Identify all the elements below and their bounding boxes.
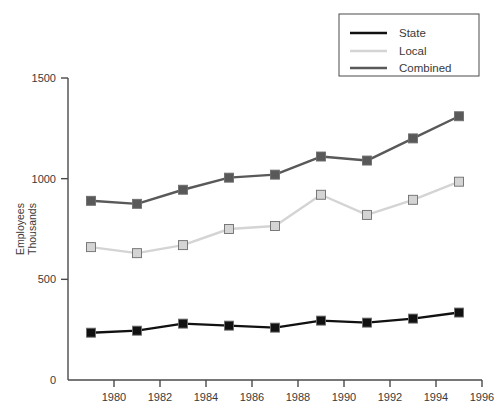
x-axis-tick-label: 1988 [286,391,310,403]
x-axis-tick-label: 1980 [102,391,126,403]
chart-legend[interactable]: State Local Combined [339,14,479,76]
y-axis-tick-label: 500 [38,273,56,285]
data-point-local-1995 [455,177,464,186]
y-axis-title: Employees Thousands [14,203,38,255]
data-point-state-1981 [133,326,142,335]
legend-label-state: State [399,27,426,39]
x-axis-tick-label: 1982 [148,391,172,403]
x-axis-tick-label: 1984 [194,391,218,403]
data-point-state-1991 [363,318,372,327]
data-point-combined-1979 [87,196,96,205]
chart-container: 050010001500 198019821984198619881990199… [0,0,494,415]
data-point-combined-1983 [179,185,188,194]
data-point-state-1995 [455,308,464,317]
x-axis-tick-label: 1990 [332,391,356,403]
x-axis-tick-label: 1992 [378,391,402,403]
x-axis-tick-labels: 198019821984198619881990199219941996 [102,391,494,403]
data-point-combined-1981 [133,199,142,208]
data-point-combined-1993 [409,134,418,143]
y-axis-tick-label: 1500 [32,72,56,84]
data-point-combined-1995 [455,112,464,121]
data-point-local-1991 [363,210,372,219]
x-axis-tick-label: 1986 [240,391,264,403]
data-point-combined-1989 [317,152,326,161]
data-point-state-1993 [409,314,418,323]
y-axis-title-line-2: Thousands [26,203,38,255]
data-point-local-1981 [133,249,142,258]
employment-line-chart: 050010001500 198019821984198619881990199… [0,0,494,415]
data-point-local-1989 [317,190,326,199]
data-point-state-1979 [87,328,96,337]
data-point-local-1993 [409,195,418,204]
data-point-combined-1985 [225,173,234,182]
x-axis-tick-label: 1996 [470,391,494,403]
legend-label-local: Local [399,45,427,57]
data-point-combined-1987 [271,170,280,179]
y-axis-tick-label: 1000 [32,173,56,185]
data-point-local-1987 [271,221,280,230]
x-axis-tick-label: 1994 [424,391,448,403]
data-point-combined-1991 [363,156,372,165]
data-point-state-1985 [225,321,234,330]
data-point-local-1983 [179,241,188,250]
y-axis-title-line-1: Employees [14,203,26,255]
data-point-state-1987 [271,323,280,332]
data-point-local-1985 [225,225,234,234]
data-point-state-1983 [179,319,188,328]
data-point-local-1979 [87,243,96,252]
y-axis-tick-label: 0 [50,374,56,386]
data-point-state-1989 [317,316,326,325]
legend-label-combined: Combined [399,62,451,74]
